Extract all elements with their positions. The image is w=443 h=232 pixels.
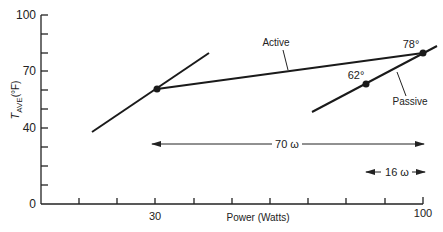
point-62 — [363, 81, 370, 88]
label-78: 78° — [403, 38, 420, 50]
chart: 100 70 40 0 30 100 Power (Watts) TAVE(°F… — [0, 0, 443, 232]
label-passive: Passive — [392, 96, 427, 107]
x-tick-100: 100 — [414, 207, 432, 219]
span-16-label: 16 ω — [385, 166, 409, 178]
y-tick-0: 0 — [29, 197, 36, 211]
active-leader — [283, 50, 288, 70]
plot-lines — [92, 46, 437, 132]
left-rising-line — [92, 53, 209, 132]
y-tick-70: 70 — [23, 64, 37, 78]
y-axis — [41, 15, 48, 204]
active-line — [157, 53, 423, 89]
point-78 — [420, 50, 427, 57]
x-axis — [41, 197, 423, 204]
y-axis-title: TAVE(°F) — [9, 81, 24, 120]
svg-text:TAVE(°F): TAVE(°F) — [9, 81, 24, 120]
label-62: 62° — [348, 69, 365, 81]
x-axis-title: Power (Watts) — [227, 212, 290, 223]
y-axis-title-sub: AVE — [15, 97, 24, 112]
passive-leader — [397, 72, 406, 96]
x-tick-30: 30 — [149, 210, 161, 222]
y-tick-100: 100 — [16, 8, 36, 22]
y-axis-title-unit: (°F) — [10, 81, 21, 98]
span-70-label: 70 ω — [275, 138, 299, 150]
y-tick-40: 40 — [23, 121, 37, 135]
point-30w — [154, 86, 161, 93]
label-active: Active — [262, 37, 290, 48]
